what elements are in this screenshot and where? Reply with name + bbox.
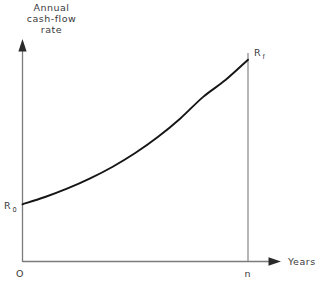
start-rate-label: R 0 xyxy=(4,200,17,214)
x-axis-arrow-icon xyxy=(269,257,282,266)
y-axis-arrow-icon xyxy=(18,39,26,52)
end-rate-label-base: R xyxy=(254,47,261,58)
end-rate-label-subscript: f xyxy=(263,53,266,61)
figure-container: Annual cash-flow rate O n Years R 0 R f xyxy=(0,0,319,284)
x-tick-label-n: n xyxy=(245,268,252,279)
cash-flow-rate-curve xyxy=(23,60,249,205)
plot-area: O n Years R 0 R f xyxy=(0,0,319,284)
origin-label: O xyxy=(16,268,24,279)
start-rate-label-subscript: 0 xyxy=(13,206,18,214)
start-rate-label-base: R xyxy=(4,200,11,211)
end-rate-label: R f xyxy=(254,47,266,61)
x-axis-title: Years xyxy=(287,256,316,267)
